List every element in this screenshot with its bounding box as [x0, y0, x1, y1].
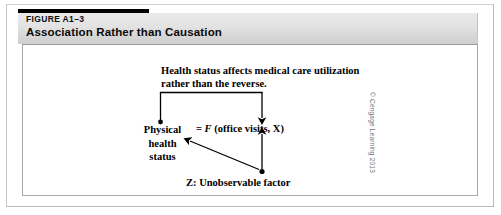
annotation-line-1: Health status affects medical care utili…: [161, 64, 391, 77]
figure-number: FIGURE A1–3: [26, 14, 84, 24]
formula-equals: =: [196, 123, 202, 134]
node-z-unobservable-factor: Z: Unobservable factor: [186, 177, 290, 188]
figure-root: FIGURE A1–3 Association Rather than Caus…: [0, 0, 501, 215]
physical-node-line-3: status: [140, 150, 185, 164]
formula-arguments: (office visits, X): [214, 123, 284, 134]
formula-expression: = F (office visits, X): [196, 123, 284, 134]
annotation-line-2: rather than the reverse.: [161, 77, 391, 90]
formula-function-name: F: [205, 123, 212, 134]
copyright-notice: © Cengage Learning 2013: [369, 92, 376, 182]
physical-node-line-1: Physical: [140, 123, 185, 137]
diagram-annotation: Health status affects medical care utili…: [161, 64, 391, 90]
physical-node-line-2: health: [140, 137, 185, 151]
figure-title: Association Rather than Causation: [26, 26, 222, 38]
node-physical-health-status: Physical health status: [140, 123, 185, 164]
